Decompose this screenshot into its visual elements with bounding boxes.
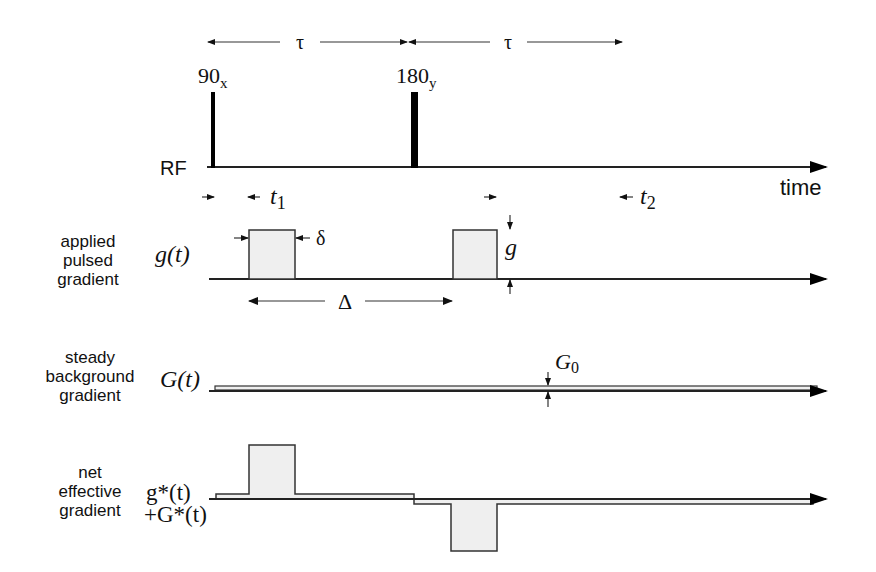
t1-marker: t1: [202, 183, 286, 213]
time-axis-label: time: [780, 175, 822, 200]
pulse-90-label: 90x: [198, 63, 228, 91]
net-gradient-positive-segment: [216, 445, 414, 499]
pulse-180-number: 180: [396, 63, 429, 88]
applied-gradient-pulse-2: [453, 230, 497, 279]
rf-pulse-180: [411, 92, 418, 168]
background-label-line2: background: [46, 367, 135, 386]
delta-small-label: δ: [316, 227, 325, 249]
pulse-90-phase: x: [220, 75, 228, 91]
applied-gradient-pulse-1: [249, 230, 295, 279]
pulse-180-phase: y: [429, 75, 437, 91]
g0-symbol: G: [555, 349, 571, 374]
tau-arrows: τ τ: [208, 31, 622, 53]
applied-label-line3: gradient: [57, 270, 119, 289]
g0-subscript: 0: [571, 359, 579, 376]
background-label-line1: steady: [65, 348, 116, 367]
pulse-90-number: 90: [198, 63, 220, 88]
t2-subscript: 2: [647, 193, 656, 213]
background-gradient-symbol: G(t): [160, 366, 200, 392]
big-delta-label: Δ: [338, 289, 352, 314]
applied-label-line2: pulsed: [63, 251, 113, 270]
pulse-180-label: 180y: [396, 63, 437, 91]
net-gradient-negative-segment: [414, 499, 813, 551]
svg-text:t2: t2: [640, 183, 656, 213]
svg-text:G0: G0: [555, 349, 579, 376]
svg-text:t1: t1: [270, 183, 286, 213]
tau-left-label: τ: [296, 31, 304, 53]
net-label-line3: gradient: [59, 501, 121, 520]
background-gradient-level: [215, 386, 817, 390]
net-gradient-symbol-line2: +G*(t): [144, 502, 207, 527]
svg-text:90x: 90x: [198, 63, 228, 91]
net-label-line1: net: [78, 463, 102, 482]
svg-text:180y: 180y: [396, 63, 437, 91]
net-gradient-row: net effective gradient g*(t) +G*(t): [58, 445, 826, 551]
rf-row: RF time: [160, 92, 826, 200]
background-label-line3: gradient: [59, 386, 121, 405]
t1-subscript: 1: [277, 193, 286, 213]
pulse-sequence-diagram: τ τ 90x 180y RF time t1 t2: [0, 0, 876, 572]
background-gradient-row: steady background gradient G(t) G0: [46, 348, 826, 407]
rf-pulse-90: [211, 92, 215, 168]
applied-gradient-row: applied pulsed gradient g(t) δ g Δ: [57, 215, 826, 314]
g-amplitude-label: g: [505, 234, 517, 260]
applied-gradient-symbol: g(t): [155, 241, 190, 267]
applied-label-line1: applied: [61, 232, 116, 251]
tau-right-label: τ: [504, 31, 512, 53]
net-label-line2: effective: [58, 482, 121, 501]
rf-label: RF: [160, 157, 187, 179]
t2-marker: t2: [484, 183, 656, 213]
